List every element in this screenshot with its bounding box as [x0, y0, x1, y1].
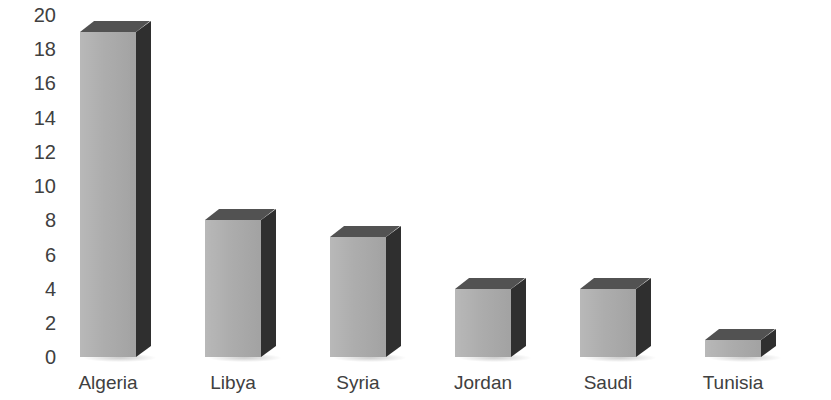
- bar-front-face: [205, 220, 261, 357]
- y-axis-tick-label: 14: [10, 108, 56, 128]
- x-axis-label-libya: Libya: [193, 372, 273, 394]
- bar-side-face: [511, 278, 526, 357]
- y-axis: 20 18 16 14 12 10 8 6 4 2 0: [0, 0, 56, 400]
- bar-side-face: [386, 226, 401, 357]
- x-axis-label-jordan: Jordan: [443, 372, 523, 394]
- plot-area: Algeria Libya Syria Jordan Saudi Tunisia: [60, 0, 831, 400]
- bar-3d-body: [455, 289, 511, 357]
- bar-3d-body: [330, 237, 386, 357]
- y-axis-tick-label: 18: [10, 39, 56, 59]
- bar-column[interactable]: [580, 289, 636, 357]
- bar-chart: 20 18 16 14 12 10 8 6 4 2 0: [0, 0, 831, 400]
- bar-column[interactable]: [705, 340, 761, 357]
- bar-side-face: [136, 21, 151, 357]
- bar-front-face: [580, 289, 636, 357]
- bar-front-face: [705, 340, 761, 357]
- bar-column[interactable]: [205, 220, 261, 357]
- x-axis-label-tunisia: Tunisia: [693, 372, 773, 394]
- bar-3d-body: [205, 220, 261, 357]
- y-axis-tick-label: 4: [10, 279, 56, 299]
- bar-3d-body: [580, 289, 636, 357]
- bar-3d-body: [705, 340, 761, 357]
- bar-front-face: [80, 32, 136, 357]
- y-axis-tick-label: 2: [10, 313, 56, 333]
- bar-front-face: [330, 237, 386, 357]
- y-axis-tick-label: 0: [10, 347, 56, 367]
- bar-front-face: [455, 289, 511, 357]
- y-axis-tick-label: 8: [10, 210, 56, 230]
- bar-side-face: [261, 209, 276, 357]
- bar-side-face: [636, 278, 651, 357]
- bar-column[interactable]: [330, 237, 386, 357]
- bar-column[interactable]: [80, 32, 136, 357]
- y-axis-tick-label: 10: [10, 176, 56, 196]
- y-axis-tick-label: 12: [10, 142, 56, 162]
- x-axis-label-saudi: Saudi: [568, 372, 648, 394]
- x-axis-label-algeria: Algeria: [68, 372, 148, 394]
- y-axis-tick-label: 20: [10, 5, 56, 25]
- y-axis-tick-label: 6: [10, 245, 56, 265]
- x-axis-label-syria: Syria: [318, 372, 398, 394]
- y-axis-tick-label: 16: [10, 73, 56, 93]
- bar-column[interactable]: [455, 289, 511, 357]
- bar-3d-body: [80, 32, 136, 357]
